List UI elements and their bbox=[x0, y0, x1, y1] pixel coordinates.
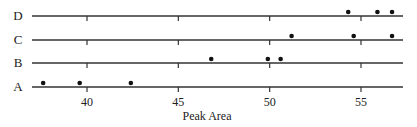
x-tick-label: 55 bbox=[355, 95, 367, 109]
data-point bbox=[289, 34, 294, 39]
dot-plot-chart: ABCD40455055Peak Area bbox=[0, 0, 417, 127]
data-point bbox=[390, 10, 395, 15]
row-label: C bbox=[14, 32, 23, 47]
row-label: A bbox=[13, 79, 23, 94]
data-point bbox=[375, 10, 380, 15]
row-label: D bbox=[13, 8, 22, 23]
x-tick-label: 40 bbox=[81, 95, 93, 109]
data-point bbox=[278, 57, 283, 62]
data-point bbox=[77, 81, 82, 86]
row-label: B bbox=[14, 55, 23, 70]
data-point bbox=[209, 57, 214, 62]
data-point bbox=[346, 10, 351, 15]
x-axis-title: Peak Area bbox=[183, 109, 233, 123]
data-point bbox=[266, 57, 271, 62]
x-tick-label: 45 bbox=[172, 95, 184, 109]
data-point bbox=[129, 81, 134, 86]
x-tick-label: 50 bbox=[264, 95, 276, 109]
data-point bbox=[41, 81, 46, 86]
data-point bbox=[390, 34, 395, 39]
data-point bbox=[351, 34, 356, 39]
